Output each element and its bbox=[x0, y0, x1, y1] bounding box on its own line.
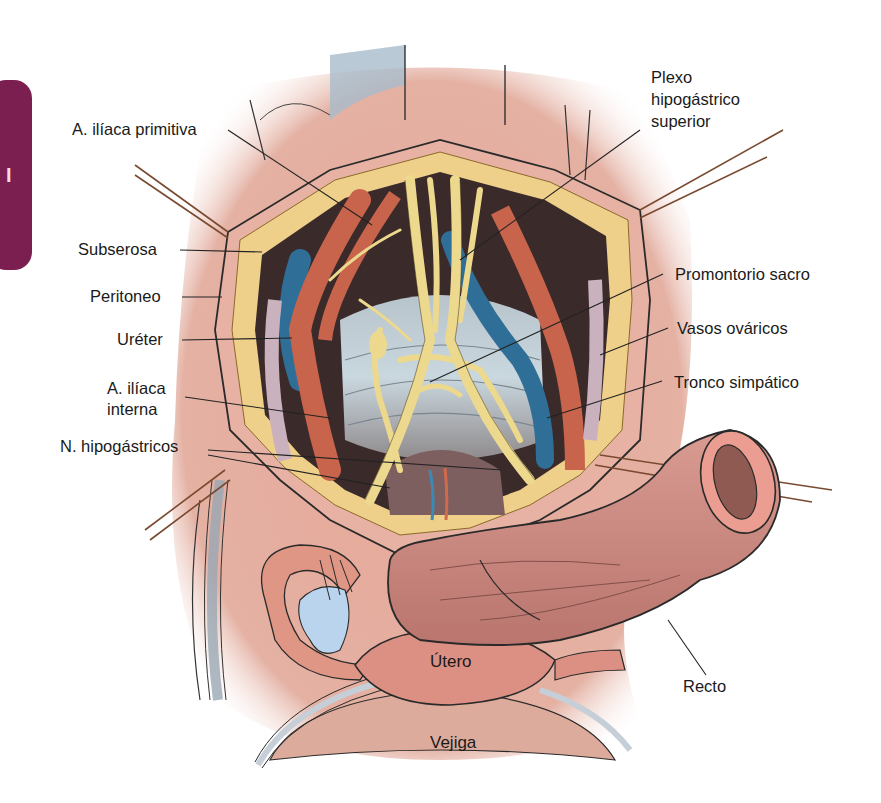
label-vejiga: Vejiga bbox=[430, 733, 476, 752]
anatomy-figure: I bbox=[0, 0, 881, 803]
label-tronco-simpatico: Tronco simpático bbox=[674, 373, 799, 392]
label-promontorio-sacro: Promontorio sacro bbox=[675, 265, 810, 284]
label-peritoneo: Peritoneo bbox=[90, 287, 161, 306]
label-ureter: Uréter bbox=[117, 330, 163, 349]
label-a-iliaca-interna-line1: A. ilíaca bbox=[107, 379, 166, 398]
label-utero: Útero bbox=[430, 652, 472, 671]
label-subserosa: Subserosa bbox=[78, 240, 157, 259]
label-a-iliaca-interna-line2: interna bbox=[107, 400, 157, 419]
label-vasos-ovaricos: Vasos ováricos bbox=[677, 319, 788, 338]
label-plexo-line3: superior bbox=[651, 112, 711, 131]
label-plexo-line1: Plexo bbox=[651, 68, 692, 87]
label-recto: Recto bbox=[683, 677, 726, 696]
label-a-iliaca-primitiva: A. ilíaca primitiva bbox=[72, 120, 197, 139]
label-n-hipogastricos: N. hipogástricos bbox=[60, 437, 178, 456]
label-plexo-line2: hipogástrico bbox=[651, 90, 740, 109]
